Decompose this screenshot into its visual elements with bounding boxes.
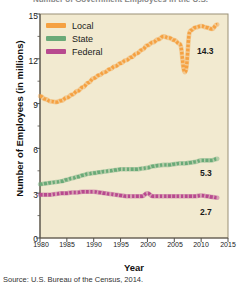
legend-item-federal[interactable]: Federal <box>46 45 103 58</box>
x-tick-label: 1990 <box>79 241 109 248</box>
x-tick-label: 1985 <box>52 241 82 248</box>
legend-swatch-state <box>46 36 66 41</box>
x-tick-label: 2010 <box>186 241 216 248</box>
x-axis-title: Year <box>40 262 228 273</box>
chart-figure: Number of Government Employees in the U.… <box>0 0 241 288</box>
legend-swatch-local <box>46 23 66 28</box>
legend-item-state[interactable]: State <box>46 32 103 45</box>
x-tick-label: 1995 <box>106 241 136 248</box>
local-end-label: 14.3 <box>197 46 214 56</box>
legend-label-state: State <box>72 34 93 44</box>
chart-legend: Local State Federal <box>46 19 103 58</box>
legend-item-local[interactable]: Local <box>46 19 103 32</box>
legend-label-local: Local <box>72 21 94 31</box>
x-tick-label: 2000 <box>133 241 163 248</box>
federal-end-label: 2.7 <box>200 207 212 217</box>
x-tick-label: 2015 <box>213 241 241 248</box>
state-end-label: 5.3 <box>200 168 212 178</box>
source-note: Source: U.S. Bureau of the Census, 2014. <box>3 275 143 284</box>
legend-label-federal: Federal <box>72 47 103 57</box>
legend-swatch-federal <box>46 49 66 54</box>
